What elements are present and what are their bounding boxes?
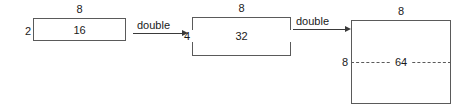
stage-1-height-label: 2 bbox=[21, 25, 31, 37]
arrow-1-label: double bbox=[137, 19, 170, 31]
stage-3-area-value: 64 bbox=[391, 56, 411, 68]
arrow-1-line bbox=[133, 33, 185, 34]
arrow-2-label: double bbox=[296, 15, 329, 27]
stage-1-width-label: 8 bbox=[33, 3, 126, 15]
stage-2-height-label: 4 bbox=[180, 30, 190, 42]
stage-2-width-label: 8 bbox=[192, 2, 291, 14]
stage-3-area-label: 64 bbox=[351, 56, 451, 68]
stage-3-height-label: 8 bbox=[338, 56, 348, 68]
stage-2-area-value: 32 bbox=[231, 30, 251, 42]
stage-1-area-label: 16 bbox=[33, 24, 126, 36]
arrow-2-line bbox=[293, 29, 349, 30]
diagram-canvas: 8 2 16 double 8 4 32 double 8 8 64 bbox=[0, 0, 471, 108]
stage-3-width-label: 8 bbox=[351, 5, 451, 17]
stage-2-area-label: 32 bbox=[192, 30, 291, 42]
